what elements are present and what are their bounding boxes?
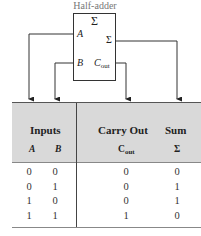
table-column-divider	[76, 103, 77, 227]
column-sum: Σ	[174, 144, 180, 154]
input-b-label: B	[77, 57, 83, 68]
cell-a: 0	[22, 181, 36, 192]
wire-sum	[116, 41, 177, 99]
block-sigma-symbol: Σ	[91, 14, 98, 29]
cell-a: 0	[22, 166, 36, 177]
header-inputs: Inputs	[30, 124, 61, 136]
output-sum-label: Σ	[106, 34, 112, 45]
column-b: B	[55, 144, 61, 154]
cell-b: 1	[48, 181, 62, 192]
cell-sum: 0	[170, 210, 184, 221]
table-bottom-border	[12, 227, 201, 228]
cell-b: 1	[48, 210, 62, 221]
header-carry-out: Carry Out	[98, 124, 148, 136]
half-adder-title: Half-adder	[73, 0, 117, 11]
cell-cout: 0	[119, 166, 133, 177]
column-a: A	[29, 144, 35, 154]
table-header-divider	[12, 162, 201, 163]
cell-cout: 1	[119, 210, 133, 221]
cell-sum: 0	[170, 166, 184, 177]
input-a-label: A	[77, 28, 83, 39]
header-sum: Sum	[165, 124, 186, 136]
column-cout: Cout	[118, 144, 135, 156]
cell-a: 1	[22, 195, 36, 206]
cell-sum: 1	[170, 181, 184, 192]
cell-b: 0	[48, 195, 62, 206]
cell-b: 0	[48, 166, 62, 177]
cell-a: 1	[22, 210, 36, 221]
wire-cout	[116, 63, 126, 99]
cell-cout: 0	[119, 181, 133, 192]
output-cout-label: Cout	[94, 57, 110, 70]
wire-b	[55, 63, 73, 99]
cell-cout: 0	[119, 195, 133, 206]
cell-sum: 1	[170, 195, 184, 206]
wire-a	[29, 34, 73, 99]
